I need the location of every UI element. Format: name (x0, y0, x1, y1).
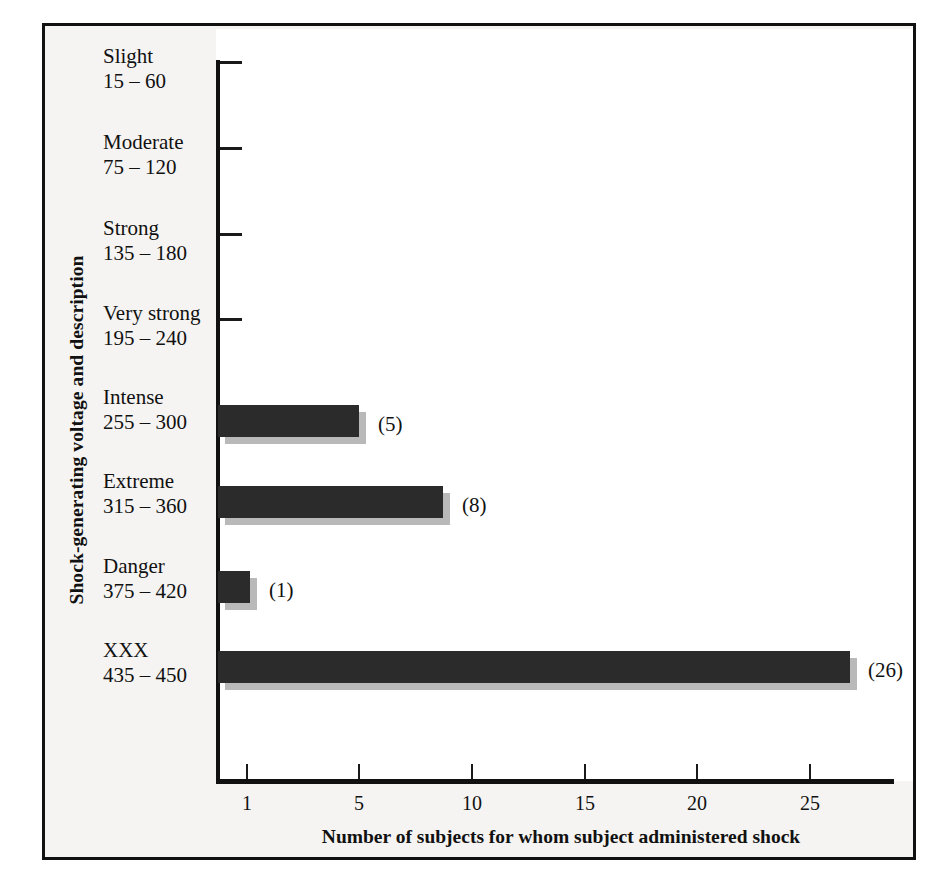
x-tick-20 (696, 764, 698, 779)
figure-frame: Shock-generating voltage and description… (42, 23, 916, 860)
category-name: Intense (103, 385, 223, 410)
category-label-extreme: Extreme 315 – 360 (103, 469, 223, 519)
bar-danger[interactable] (218, 571, 250, 603)
bar-chart-figure: Shock-generating voltage and description… (0, 0, 945, 888)
category-name: Very strong (103, 301, 223, 326)
category-name: Extreme (103, 469, 223, 494)
x-tick-5 (358, 764, 360, 779)
y-tick-very-strong (220, 318, 242, 321)
bar-extreme[interactable] (218, 486, 443, 518)
category-label-strong: Strong 135 – 180 (103, 216, 223, 266)
x-tick-10 (471, 764, 473, 779)
bar-xxx[interactable] (218, 651, 850, 683)
x-tick-25 (809, 764, 811, 779)
x-tick-label-5: 5 (339, 792, 379, 815)
x-axis-title: Number of subjects for whom subject admi… (216, 826, 906, 848)
category-range: 435 – 450 (103, 663, 223, 688)
bar-value-xxx: (26) (868, 660, 903, 681)
y-tick-strong (220, 233, 242, 236)
x-tick-label-15: 15 (565, 792, 605, 815)
category-range: 135 – 180 (103, 241, 223, 266)
bar-value-intense: (5) (378, 414, 403, 435)
category-label-moderate: Moderate 75 – 120 (103, 130, 223, 180)
x-tick-15 (584, 764, 586, 779)
category-range: 255 – 300 (103, 410, 223, 435)
category-name: Danger (103, 554, 223, 579)
y-tick-moderate (220, 147, 242, 150)
x-axis-line (216, 779, 894, 784)
category-range: 195 – 240 (103, 326, 223, 351)
category-label-slight: Slight 15 – 60 (103, 44, 223, 94)
x-tick-label-10: 10 (452, 792, 492, 815)
x-tick-label-25: 25 (790, 792, 830, 815)
category-range: 315 – 360 (103, 494, 223, 519)
y-axis-title: Shock-generating voltage and description (66, 250, 88, 610)
category-range: 15 – 60 (103, 69, 223, 94)
category-label-xxx: XXX 435 – 450 (103, 638, 223, 688)
category-name: Slight (103, 44, 223, 69)
category-label-danger: Danger 375 – 420 (103, 554, 223, 604)
category-label-very-strong: Very strong 195 – 240 (103, 301, 223, 351)
category-range: 375 – 420 (103, 579, 223, 604)
x-tick-label-20: 20 (677, 792, 717, 815)
category-name: XXX (103, 638, 223, 663)
y-tick-slight (220, 61, 242, 64)
category-range: 75 – 120 (103, 155, 223, 180)
category-label-intense: Intense 255 – 300 (103, 385, 223, 435)
category-name: Moderate (103, 130, 223, 155)
category-name: Strong (103, 216, 223, 241)
bar-value-extreme: (8) (462, 495, 487, 516)
x-tick-label-1: 1 (227, 792, 267, 815)
bar-value-danger: (1) (269, 580, 294, 601)
bar-intense[interactable] (218, 405, 359, 437)
x-tick-1 (246, 764, 248, 779)
